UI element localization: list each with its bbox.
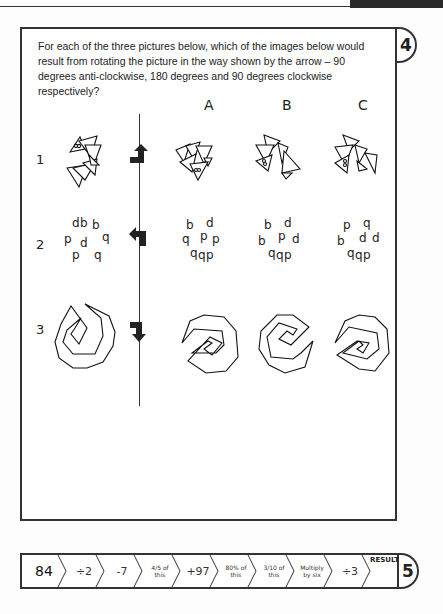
chain-step-8: ÷3 [332,555,368,587]
question-number-badge: 4 [397,27,417,63]
puzzle-number-badge: 5 [399,553,419,589]
letter-cluster-option-b: b d b p d q q p [256,218,306,264]
row-number-2: 2 [36,237,44,252]
question-text: For each of the three pictures below, wh… [38,39,378,99]
result-label: RESULT [370,556,399,564]
spiral-polygon-source [53,302,117,372]
spiral-polygon-option-b [257,313,315,375]
calculation-chain: 84 ÷2 -7 4/5 of this +97 80% of this 3/1… [20,553,399,589]
chain-start-value: 84 [24,555,64,587]
letter-cluster-option-a: b d q p p q q p [180,218,230,264]
spiral-polygon-option-c [333,313,393,375]
page-top-rule [0,6,350,7]
spiral-polygon-option-a [180,313,240,375]
triangle-cluster-option-c [333,133,383,179]
rotate-180-arrow-icon [128,226,150,250]
chain-step-6: 3/10 of this [256,555,292,587]
row-number-3: 3 [36,322,44,337]
chain-step-1: ÷2 [66,555,102,587]
chain-step-2: -7 [104,555,140,587]
column-label-c: C [358,97,368,113]
chain-step-5: 80% of this [218,555,254,587]
chain-step-7: Multiply by six [294,555,330,587]
rotate-clockwise-arrow-icon [128,320,150,344]
chain-step-4: +97 [180,555,216,587]
page-top-bar [350,0,443,8]
row-number-1: 1 [36,152,44,167]
triangle-cluster-option-b [254,133,306,181]
triangle-cluster-source [65,135,115,193]
rotate-anticlockwise-arrow-icon [128,143,150,167]
triangle-cluster-option-a [174,138,230,182]
column-label-a: A [204,97,214,113]
chain-step-3: 4/5 of this [142,555,178,587]
letter-cluster-source: d b b p d q p q [62,216,122,266]
letter-cluster-option-c: p q b d d q q p [335,218,385,264]
column-label-b: B [282,97,292,113]
